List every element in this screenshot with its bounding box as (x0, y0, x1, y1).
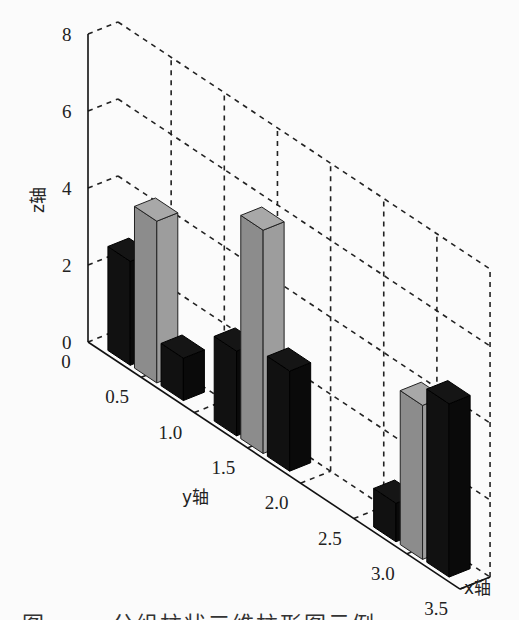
z-tick-label: 2 (62, 255, 72, 276)
y-tick-label: 2.5 (318, 528, 342, 549)
bar (161, 335, 204, 401)
z-tick-label: 0 (62, 332, 72, 353)
bars (108, 198, 470, 577)
y-tick-label: 0 (61, 351, 71, 372)
bar (427, 381, 470, 577)
bar3-chart: 0246800.51.01.52.02.53.03.5 z轴 y轴 x轴 (0, 0, 519, 620)
y-tick-label: 1.0 (158, 422, 182, 443)
z-tick-label: 6 (62, 101, 72, 122)
y-tick-label: 0.5 (105, 386, 129, 407)
z-tick-label: 8 (62, 24, 72, 45)
y-tick-label: 3.0 (371, 563, 395, 584)
figure-caption: 图 …… 分组柱状三维柱形图示例 (22, 606, 512, 620)
z-axis-label: z轴 (28, 187, 48, 213)
y-axis-label: y轴 (182, 487, 209, 507)
y-tick-label: 2.0 (265, 492, 289, 513)
y-tick-label: 1.5 (212, 457, 236, 478)
x-axis-label: x轴 (464, 578, 491, 598)
z-tick-label: 4 (62, 178, 72, 199)
bar (267, 348, 310, 471)
